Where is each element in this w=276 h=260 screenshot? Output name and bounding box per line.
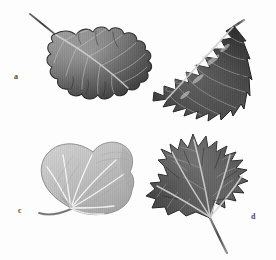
- figure-holly-leaf: [153, 20, 252, 121]
- holly-petiole: [233, 20, 244, 27]
- cordate-petiole: [39, 209, 71, 214]
- figure-label-b: b: [239, 73, 243, 81]
- figure-maple-leaf: [146, 134, 248, 253]
- figure-label-d: d: [251, 213, 255, 221]
- leaf-plate: a b c d: [0, 0, 276, 260]
- figure-label-a: a: [14, 73, 18, 81]
- figure-oak-leaf: [30, 14, 152, 99]
- figure-cordate-leaf: [39, 142, 134, 215]
- figure-label-c: c: [18, 207, 22, 215]
- maple-petiole: [210, 218, 227, 253]
- plate-artwork: [0, 0, 276, 260]
